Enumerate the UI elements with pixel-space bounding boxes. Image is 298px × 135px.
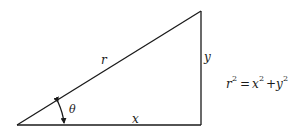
- eq-term1-exp: 2: [259, 74, 264, 83]
- angle-label: θ: [69, 103, 76, 116]
- horizontal-leg-label: x: [132, 112, 139, 126]
- eq-lhs-exp: 2: [232, 74, 237, 83]
- eq-term2-base: y: [275, 77, 283, 91]
- pythagorean-equation: r 2 = x 2 + y 2: [226, 74, 288, 91]
- hypotenuse-label: r: [101, 53, 108, 67]
- eq-plus: +: [266, 77, 276, 91]
- triangle-diagram: r y x θ r 2 = x 2 + y 2: [0, 0, 298, 135]
- angle-arrow: [58, 102, 64, 123]
- eq-term2-exp: 2: [283, 74, 288, 83]
- eq-term1-base: x: [252, 77, 259, 91]
- eq-equals: =: [240, 77, 250, 91]
- hypotenuse-line: [17, 11, 201, 125]
- vertical-leg-label: y: [203, 50, 211, 64]
